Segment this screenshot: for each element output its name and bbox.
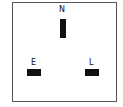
live-prong <box>85 69 99 76</box>
neutral-label: N <box>59 6 65 14</box>
earth-prong <box>27 69 41 76</box>
neutral-prong <box>60 19 66 38</box>
socket-outline <box>12 2 117 102</box>
earth-label: E <box>31 59 36 67</box>
live-label: L <box>89 59 93 67</box>
